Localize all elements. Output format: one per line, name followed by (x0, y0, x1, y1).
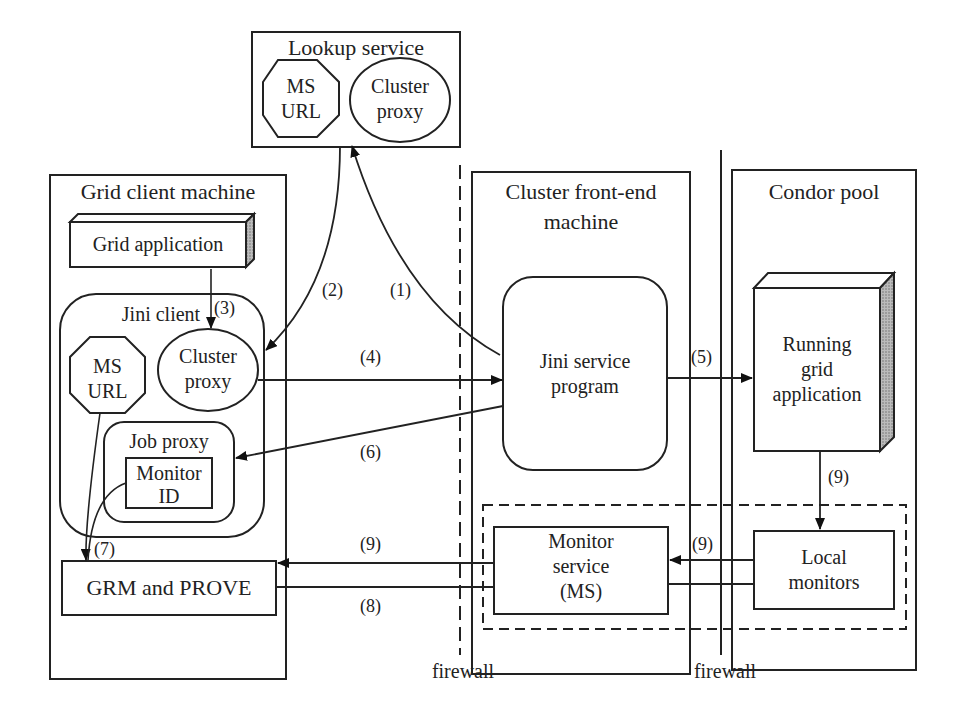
proxy-label-client: proxy (158, 370, 258, 392)
local-monitors-box (754, 531, 894, 609)
ms-label-client: MS (70, 355, 145, 377)
condor-pool-title: Condor pool (732, 180, 916, 204)
jini-service-label-2: program (503, 375, 667, 397)
grid-application-label: Grid application (70, 233, 246, 255)
monitor-service-label-1: Monitor (494, 530, 668, 552)
step-3: (3) (214, 299, 235, 319)
lookup-service-title: Lookup service (252, 36, 460, 60)
step-9-ms: (9) (692, 535, 713, 555)
firewall-label-1: firewall (418, 660, 508, 682)
monitor-label-client: Monitor (126, 462, 212, 484)
proxy-label-lookup: proxy (350, 100, 450, 122)
ms-url-octagon-lookup (263, 60, 339, 137)
cluster-label-lookup: Cluster (350, 75, 450, 97)
cluster-frontend-title-1: Cluster front-end (472, 180, 690, 204)
monitors-label: monitors (754, 571, 894, 593)
job-proxy-label: Job proxy (104, 430, 234, 452)
jini-service-box (503, 277, 667, 470)
firewall-label-2: firewall (680, 660, 770, 682)
step-4: (4) (360, 348, 381, 368)
url-label-client: URL (70, 380, 145, 402)
monitor-service-label-2: service (494, 555, 668, 577)
running-label: Running (754, 333, 880, 355)
grm-prove-label: GRM and PROVE (62, 576, 276, 600)
grid-client-title: Grid client machine (50, 180, 286, 204)
monitor-service-label-3: (MS) (494, 580, 668, 602)
step-2: (2) (322, 281, 343, 301)
application-label: application (754, 383, 880, 405)
grid-label: grid (754, 358, 880, 380)
step-9-grm: (9) (360, 535, 381, 555)
jini-service-label-1: Jini service (503, 350, 667, 372)
cluster-label-client: Cluster (158, 345, 258, 367)
step-9-local: (9) (828, 468, 849, 488)
local-label: Local (754, 546, 894, 568)
step-5: (5) (691, 348, 712, 368)
url-label-lookup: URL (263, 100, 339, 122)
step-6: (6) (360, 443, 381, 463)
step-7: (7) (94, 540, 115, 560)
ms-label-lookup: MS (263, 75, 339, 97)
cluster-frontend-title-2: machine (472, 210, 690, 234)
jini-client-label: Jini client (118, 303, 204, 325)
step-1: (1) (390, 281, 411, 301)
id-label-client: ID (126, 485, 212, 507)
step-8: (8) (360, 597, 381, 617)
